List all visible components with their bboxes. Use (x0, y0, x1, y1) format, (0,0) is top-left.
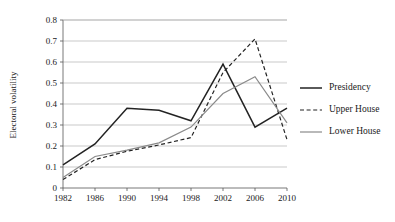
series-line-upper-house (63, 39, 287, 180)
x-tick-label-2010: 2010 (278, 193, 297, 203)
y-tick-label-0: 0 (53, 183, 58, 193)
y-tick-label-0.5: 0.5 (46, 78, 58, 88)
x-tick-label-1994: 1994 (150, 193, 169, 203)
legend-label-presidency: Presidency (329, 82, 371, 92)
gridlines-group (63, 20, 287, 167)
x-tick-label-2006: 2006 (246, 193, 265, 203)
y-tick-label-0.6: 0.6 (46, 57, 58, 67)
y-tick-label-0.8: 0.8 (46, 15, 58, 25)
y-tick-label-0.7: 0.7 (46, 36, 58, 46)
y-tick-label-0.2: 0.2 (46, 141, 57, 151)
tick-marks-group (60, 20, 287, 191)
series-line-presidency (63, 64, 287, 165)
chart-figure: 00.10.20.30.40.50.60.70.8 19821986199019… (0, 0, 395, 222)
data-series-group (63, 39, 287, 180)
x-tick-label-1982: 1982 (54, 193, 72, 203)
chart-legend: PresidencyUpper HouseLower House (300, 82, 380, 136)
series-line-lower-house (63, 77, 287, 178)
x-tick-label-2002: 2002 (214, 193, 232, 203)
x-tick-label-1990: 1990 (118, 193, 137, 203)
x-tick-label-1998: 1998 (182, 193, 201, 203)
y-axis-title: Electoral volatility (8, 71, 18, 139)
legend-label-upper-house: Upper House (329, 104, 379, 114)
y-tick-label-0.1: 0.1 (46, 162, 57, 172)
y-tick-label-0.4: 0.4 (46, 99, 58, 109)
y-axis-tick-labels: 00.10.20.30.40.50.60.70.8 (46, 15, 58, 193)
x-axis-tick-labels: 19821986199019941998200220062010 (54, 193, 297, 203)
legend-label-lower-house: Lower House (329, 126, 380, 136)
electoral-volatility-line-chart: 00.10.20.30.40.50.60.70.8 19821986199019… (0, 0, 395, 222)
x-tick-label-1986: 1986 (86, 193, 105, 203)
y-tick-label-0.3: 0.3 (46, 120, 58, 130)
